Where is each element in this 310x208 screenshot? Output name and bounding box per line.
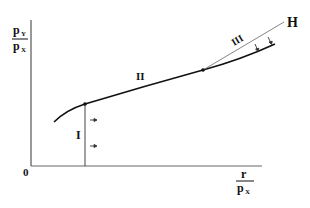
h-line-label: H [287, 15, 298, 30]
svg-text:Y: Y [21, 30, 26, 38]
svg-text:p: p [237, 181, 244, 195]
svg-text:p: p [13, 23, 20, 37]
kink-point-i [83, 102, 87, 106]
svg-text:X: X [245, 188, 250, 196]
region-i-label: I [76, 128, 81, 142]
svg-text:r: r [241, 167, 247, 181]
x-axis-label: r p X [236, 167, 254, 196]
y-axis-label: p Y p X [12, 23, 28, 54]
arrow-icon [255, 44, 259, 52]
svg-text:X: X [21, 46, 26, 54]
svg-text:p: p [13, 39, 20, 53]
origin-label: 0 [23, 166, 29, 178]
region-ii-label: II [136, 70, 145, 82]
arrow-icon [268, 37, 272, 45]
arrow-icon [90, 119, 97, 122]
diagram-canvas: p Y p X r p X 0 I II III H [0, 0, 310, 208]
arrow-icon [90, 145, 97, 148]
region-iii-label: III [229, 32, 245, 47]
kink-point-ii [201, 68, 205, 72]
main-curve [54, 44, 275, 122]
